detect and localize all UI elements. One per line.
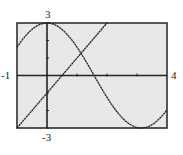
xmin-label: -1 [1, 70, 10, 81]
graph-window [0, 0, 183, 155]
ymin-label: -3 [42, 132, 51, 143]
ymax-label: 3 [45, 9, 51, 20]
xmax-label: 4 [171, 70, 177, 81]
